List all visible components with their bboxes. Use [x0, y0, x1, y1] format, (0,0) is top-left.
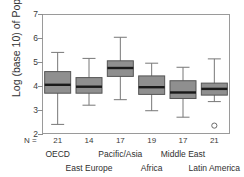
- x-category-label: OECD: [45, 149, 70, 159]
- box-plot-group: [170, 67, 196, 117]
- n-count-label: 21: [48, 136, 68, 146]
- box-plot-group: [45, 52, 71, 124]
- n-count-label: 17: [173, 136, 193, 146]
- n-count-label: 21: [204, 136, 224, 146]
- x-category-label: Pacific/Asia: [98, 149, 142, 159]
- box-iqr-rect: [170, 81, 196, 99]
- box-plot-group: [107, 37, 133, 99]
- outlier-marker: [212, 123, 217, 128]
- box-iqr-rect: [45, 72, 71, 94]
- x-category-label: East Europe: [66, 163, 113, 173]
- n-count-label: 14: [79, 136, 99, 146]
- n-count-label: 17: [110, 136, 130, 146]
- box-plot-group: [139, 63, 165, 111]
- x-category-label: Latin America: [189, 163, 241, 173]
- x-category-label: Africa: [141, 163, 163, 173]
- boxplot-chart: Log (base 10) of Population 234567 N = 2…: [0, 0, 244, 177]
- n-count-label: 19: [142, 136, 162, 146]
- x-category-label: Middle East: [161, 149, 205, 159]
- n-prefix-label: N =: [24, 136, 37, 146]
- box-plot-group: [201, 59, 227, 128]
- box-iqr-rect: [76, 78, 102, 94]
- box-iqr-rect: [139, 76, 165, 94]
- box-plot-group: [76, 58, 102, 105]
